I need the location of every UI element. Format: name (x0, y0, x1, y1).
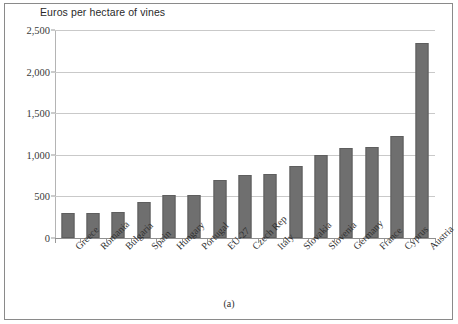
x-axis-tick-mark (435, 239, 436, 243)
bar-slot (106, 30, 131, 238)
x-axis-tick-mark (258, 239, 259, 243)
x-axis-tick-label: Italy (275, 244, 283, 252)
y-axis-tick-mark (51, 30, 55, 31)
x-axis-tick-label: Germany (351, 244, 359, 252)
x-axis-tick-mark (410, 239, 411, 243)
bar-slot (308, 30, 333, 238)
bar-slot (55, 30, 80, 238)
bar-slot (410, 30, 435, 238)
bar (416, 43, 429, 238)
plot-area (55, 30, 435, 238)
y-axis-tick-mark (51, 113, 55, 114)
x-axis-tick-mark (156, 239, 157, 243)
bar (289, 166, 302, 238)
x-axis-tick-mark (207, 239, 208, 243)
x-axis-tick-label: Austria (427, 244, 435, 252)
y-axis-tick-mark (51, 154, 55, 155)
x-axis-tick-label: Hungary (174, 244, 182, 252)
x-axis-tick-mark (384, 239, 385, 243)
x-axis-tick-label: Bulgaria (123, 244, 131, 252)
x-axis-tick-mark (106, 239, 107, 243)
x-axis-tick-label: Spain (149, 244, 157, 252)
chart-axis-title: Euros per hectare of vines (40, 6, 165, 18)
x-axis-tick-label: Cyprus (402, 244, 410, 252)
y-axis-tick-label: 1,500 (26, 108, 50, 119)
x-axis-tick-mark (80, 239, 81, 243)
x-axis-tick-label: EU-27 (225, 244, 233, 252)
y-axis-tick-mark (51, 71, 55, 72)
bar-slot (182, 30, 207, 238)
x-axis-tick-labels: GreeceRomaniaBulgariaSpainHungaryPortuga… (55, 244, 435, 300)
x-axis-tick-mark (359, 239, 360, 243)
x-axis-tick-mark (55, 239, 56, 243)
x-axis-tick-mark (131, 239, 132, 243)
y-axis-tick-mark (51, 196, 55, 197)
bar-slot (283, 30, 308, 238)
bar-series (55, 30, 435, 238)
bar-slot (384, 30, 409, 238)
bar-slot (258, 30, 283, 238)
y-axis-tick-label: 2,000 (26, 66, 50, 77)
bar-slot (359, 30, 384, 238)
bar-slot (156, 30, 181, 238)
bar-slot (80, 30, 105, 238)
bar (390, 136, 403, 238)
y-axis-tick-label: 1,000 (26, 149, 50, 160)
x-axis-tick-label: France (377, 244, 385, 252)
figure-panel: Euros per hectare of vines 05001,0001,50… (0, 0, 458, 324)
x-axis-tick-label: Czech Rep (250, 244, 258, 252)
bar-slot (232, 30, 257, 238)
x-axis-tick-mark (308, 239, 309, 243)
y-axis-tick-labels: 05001,0001,5002,0002,500 (8, 30, 50, 238)
x-axis-tick-mark (232, 239, 233, 243)
x-axis-tick-mark (182, 239, 183, 243)
x-axis-tick-mark (283, 239, 284, 243)
bar-slot (131, 30, 156, 238)
x-axis-tick-label: Slovakia (301, 244, 309, 252)
bar-slot (334, 30, 359, 238)
x-axis-tick-mark (334, 239, 335, 243)
figure-caption: (a) (0, 298, 458, 309)
x-axis-tick-label: Slovenia (326, 244, 334, 252)
x-axis-tick-label: Greece (73, 244, 81, 252)
x-axis-tick-label: Romania (98, 244, 106, 252)
y-axis-tick-label: 2,500 (26, 25, 50, 36)
bar (61, 213, 74, 238)
bar-slot (207, 30, 232, 238)
y-axis-tick-label: 500 (34, 191, 50, 202)
x-axis-tick-label: Portugal (199, 244, 207, 252)
y-axis-tick-label: 0 (45, 233, 50, 244)
